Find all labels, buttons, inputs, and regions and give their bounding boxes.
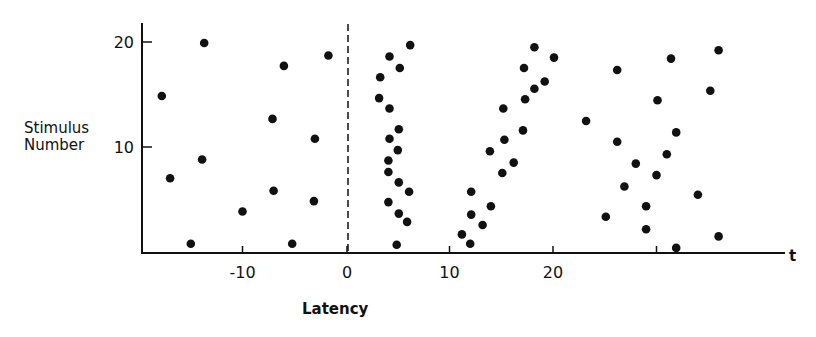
data-point <box>324 51 333 60</box>
data-point <box>530 85 539 94</box>
x-tick-label: 20 <box>543 263 563 282</box>
y-axis-label: Stimulus Number <box>24 120 89 154</box>
data-point <box>540 77 549 86</box>
data-point <box>384 168 393 177</box>
data-point <box>384 198 393 207</box>
data-point <box>396 64 405 73</box>
data-point <box>632 159 641 168</box>
x-tick-label: 10 <box>439 263 459 282</box>
data-point <box>642 225 651 234</box>
data-point <box>166 174 175 183</box>
data-point <box>602 212 611 221</box>
data-point <box>486 147 495 156</box>
y-axis-label-line1: Stimulus <box>24 120 89 137</box>
data-point <box>694 191 703 200</box>
data-point <box>467 187 476 196</box>
data-point <box>200 39 209 48</box>
y-tick-label: 10 <box>114 138 134 157</box>
data-point <box>582 117 591 126</box>
x-axis-label: Latency <box>302 300 368 318</box>
data-point <box>385 104 394 113</box>
data-point <box>620 182 629 191</box>
data-point <box>672 128 681 137</box>
data-point <box>714 46 723 55</box>
data-point <box>467 210 476 219</box>
x-axis-end-label: t <box>789 247 796 265</box>
data-point <box>613 66 622 75</box>
data-point <box>158 92 167 101</box>
data-point <box>376 73 385 82</box>
data-point <box>520 64 529 73</box>
data-point <box>392 241 401 250</box>
data-point <box>500 135 509 144</box>
scatter-chart: -10010201020 <box>0 0 816 337</box>
data-point <box>652 171 661 180</box>
data-point <box>406 41 415 50</box>
data-point <box>509 158 518 167</box>
data-point <box>269 186 278 195</box>
data-point <box>384 156 393 165</box>
data-point <box>550 53 559 62</box>
data-point <box>311 134 320 143</box>
data-point <box>395 125 404 134</box>
data-point <box>498 169 507 178</box>
y-tick-label: 20 <box>114 33 134 52</box>
data-point <box>487 202 496 211</box>
data-point <box>403 218 412 227</box>
data-point <box>280 62 289 71</box>
data-point <box>288 239 297 248</box>
data-point <box>310 197 319 206</box>
data-point <box>499 104 508 113</box>
data-point <box>395 178 404 187</box>
data-point <box>198 155 207 164</box>
data-point <box>478 221 487 230</box>
data-point <box>385 134 394 143</box>
data-point <box>466 239 475 248</box>
data-point <box>613 138 622 147</box>
data-point <box>706 87 715 96</box>
data-point <box>238 207 247 216</box>
data-point <box>375 94 384 103</box>
data-point <box>187 239 196 248</box>
data-point <box>521 95 530 104</box>
data-point <box>653 96 662 105</box>
data-point <box>458 230 467 239</box>
data-point <box>268 115 277 124</box>
data-point <box>394 146 403 155</box>
x-tick-label: 0 <box>342 263 352 282</box>
data-point <box>405 187 414 196</box>
axes: -10010201020 <box>114 23 785 282</box>
data-point <box>667 54 676 63</box>
data-point <box>714 232 723 241</box>
data-point <box>519 126 528 135</box>
x-tick-label: -10 <box>229 263 255 282</box>
data-point <box>530 43 539 52</box>
data-point <box>395 209 404 218</box>
data-point <box>672 244 681 253</box>
data-point <box>642 202 651 211</box>
data-point <box>385 52 394 61</box>
data-point <box>663 150 672 159</box>
data-points <box>158 39 723 253</box>
y-axis-label-line2: Number <box>24 137 89 154</box>
